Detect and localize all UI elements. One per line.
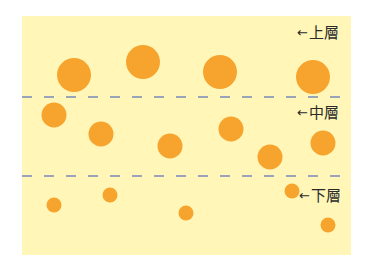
lower-layer-label-text: 下層 — [311, 187, 341, 205]
lower-layer-particle — [179, 206, 194, 221]
left-arrow-icon: ← — [299, 189, 310, 202]
middle-layer-particle — [311, 131, 336, 156]
lower-layer-label: ←下層 — [299, 189, 341, 204]
middle-layer-label-text: 中層 — [309, 104, 339, 122]
middle-layer-label: ←中層 — [297, 106, 339, 121]
upper-layer-label: ←上層 — [297, 26, 339, 41]
lower-layer-particle — [103, 188, 118, 203]
lower-layer-particle — [285, 184, 300, 199]
upper-layer-particle — [203, 55, 237, 89]
upper-layer-particle — [296, 60, 330, 94]
upper-layer-label-text: 上層 — [309, 24, 339, 42]
middle-layer-particle — [89, 122, 114, 147]
lower-layer-particle — [47, 198, 62, 213]
middle-layer-particle — [219, 117, 244, 142]
left-arrow-icon: ← — [297, 26, 308, 39]
layered-particle-diagram: ←上層 ←中層 ←下層 — [0, 0, 366, 272]
upper-layer-particle — [126, 45, 160, 79]
upper-layer-particle — [57, 58, 91, 92]
lower-layer-particle — [321, 218, 336, 233]
middle-layer-particle — [258, 145, 283, 170]
middle-layer-particle — [42, 103, 67, 128]
left-arrow-icon: ← — [297, 106, 308, 119]
middle-layer-particle — [158, 134, 183, 159]
